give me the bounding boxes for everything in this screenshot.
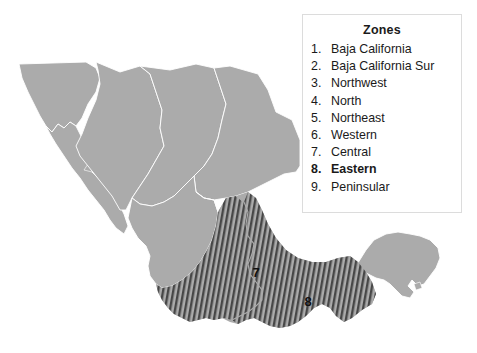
legend-item-2: 2. Baja California Sur: [311, 58, 461, 75]
legend-item-label: North: [331, 93, 361, 110]
legend-item-label: Northwest: [331, 75, 387, 92]
legend-item-label: Central: [331, 144, 371, 161]
legend-item-number: 4.: [311, 93, 331, 110]
legend-item-number: 2.: [311, 58, 331, 75]
legend-item-number: 7.: [311, 144, 331, 161]
zones-legend: Zones 1. Baja California 2. Baja Califor…: [302, 14, 462, 213]
legend-item-9: 9. Peninsular: [311, 179, 461, 196]
legend-item-3: 3. Northwest: [311, 75, 461, 92]
legend-item-label: Peninsular: [331, 179, 390, 196]
legend-item-label: Baja California: [331, 41, 412, 58]
legend-item-7: 7. Central: [311, 144, 461, 161]
legend-item-label: Western: [331, 127, 377, 144]
legend-item-number: 5.: [311, 110, 331, 127]
legend-item-4: 4. North: [311, 93, 461, 110]
legend-item-label: Eastern: [331, 161, 376, 178]
map-label-zone-8: 8: [304, 294, 311, 309]
legend-item-number: 6.: [311, 127, 331, 144]
legend-item-5: 5. Northeast: [311, 110, 461, 127]
legend-list: 1. Baja California 2. Baja California Su…: [303, 41, 461, 196]
legend-item-number: 8.: [311, 161, 331, 178]
legend-title: Zones: [303, 23, 461, 38]
legend-item-1: 1. Baja California: [311, 41, 461, 58]
legend-item-number: 9.: [311, 179, 331, 196]
map-label-zone-7: 7: [252, 265, 259, 280]
legend-item-8: 8. Eastern: [311, 161, 461, 178]
legend-item-number: 1.: [311, 41, 331, 58]
legend-item-6: 6. Western: [311, 127, 461, 144]
legend-item-number: 3.: [311, 75, 331, 92]
legend-item-label: Northeast: [331, 110, 385, 127]
legend-item-label: Baja California Sur: [331, 58, 434, 75]
